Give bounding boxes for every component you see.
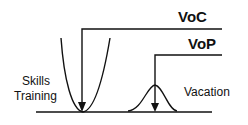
diagram-canvas — [0, 0, 248, 125]
vop-arrow-icon — [151, 103, 159, 112]
skills-label: Skills — [22, 75, 50, 87]
training-label: Training — [14, 90, 57, 102]
vacation-distribution-curve — [128, 85, 177, 111]
voc-label: VoC — [178, 9, 207, 24]
vop-label: VoP — [188, 36, 216, 51]
vacation-label: Vacation — [184, 86, 230, 98]
skills-training-distribution-curve — [61, 38, 110, 112]
